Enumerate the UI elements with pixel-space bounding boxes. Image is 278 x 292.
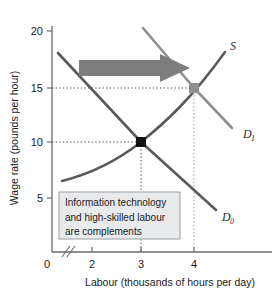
annotation-line-3: are complements [65,226,142,237]
economics-supply-demand-figure: 20 15 10 5 0 2 3 4 Wage rate (pounds per… [0,0,278,292]
arrow-shape [79,54,190,82]
y-tick-label-10: 10 [31,136,43,148]
demand-curve-d1 [143,28,232,128]
y-tick-label-5: 5 [37,192,43,204]
y-axis-title: Wage rate (pounds per hour) [8,71,20,205]
annotation-line-2: and high-skilled labour [65,212,166,223]
demand-shift-arrow [79,54,190,82]
chart-canvas: 20 15 10 5 0 2 3 4 Wage rate (pounds per… [0,0,278,292]
y-tick-label-20: 20 [31,25,43,37]
demand-old-curve-label-sub: 0 [230,217,234,226]
x-tick-label-4: 4 [191,258,197,270]
marker-initial-equilibrium [136,137,146,147]
x-tick-label-3: 3 [138,258,144,270]
annotation-line-1: Information technology [65,197,166,208]
demand-new-curve-label-sub: 1 [251,134,255,143]
x-tick-label-2: 2 [89,258,95,270]
complements-annotation-box: Information technology and high-skilled … [59,192,180,239]
supply-curve-label: S [230,39,236,53]
marker-new-equilibrium [189,83,199,93]
x-axis-title: Labour (thousands of hours per day) [85,276,255,288]
x-tick-label-0: 0 [44,258,50,270]
y-tick-label-15: 15 [31,82,43,94]
demand-curve-d0 [58,53,216,210]
